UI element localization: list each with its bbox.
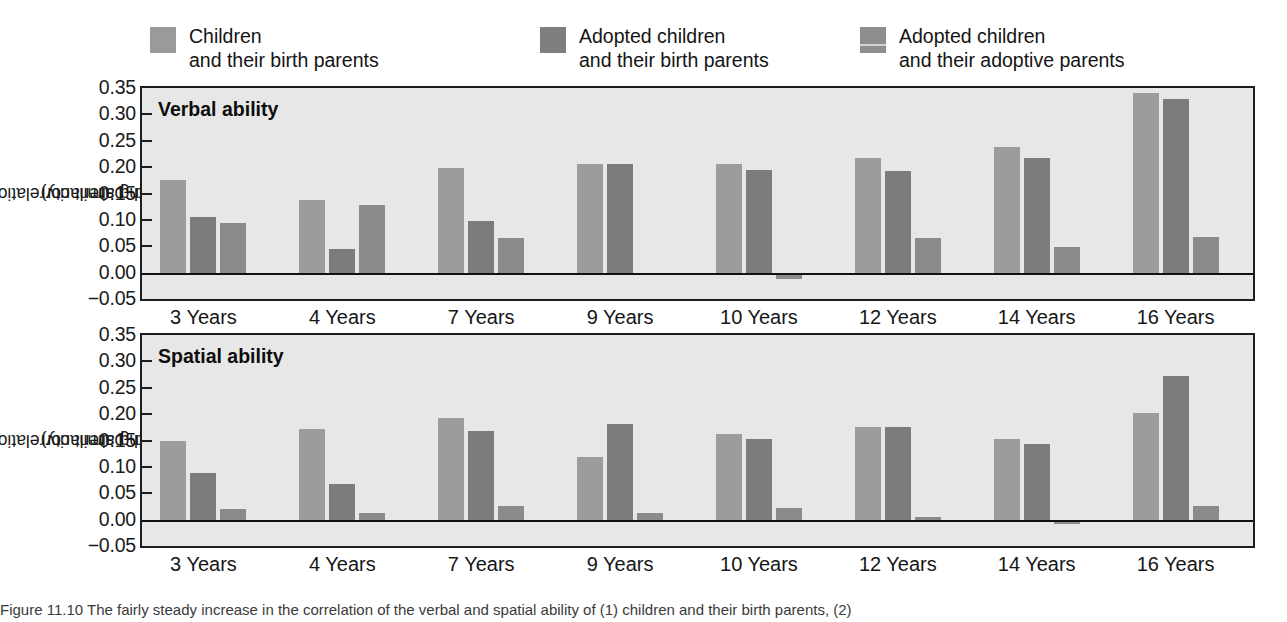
y-axis-ticks-verbal: 0.350.300.250.200.150.100.050.00−0.05: [58, 86, 136, 301]
figure-caption: Figure 11.10 The fairly steady increase …: [0, 600, 1287, 619]
y-tick-label: 0.35: [99, 325, 136, 345]
bar: [160, 441, 186, 520]
y-tick-label: 0.00: [99, 263, 136, 283]
bar: [1024, 158, 1050, 273]
x-tick-label: 7 Years: [448, 552, 515, 576]
y-tick-label: 0.10: [99, 457, 136, 477]
y-tick-label: 0.20: [99, 157, 136, 177]
bar: [1163, 376, 1189, 519]
y-tick-mark: [142, 387, 152, 389]
y-tick-label: 0.15: [99, 431, 136, 451]
bar: [994, 439, 1020, 520]
x-tick-label: 12 Years: [859, 305, 937, 329]
x-tick-label: 9 Years: [587, 552, 654, 576]
y-tick-mark: [142, 113, 152, 115]
bar: [329, 484, 355, 519]
bar: [299, 200, 325, 272]
x-tick-label: 7 Years: [448, 305, 515, 329]
y-tick-label: −0.05: [88, 289, 136, 309]
y-tick-label: 0.15: [99, 184, 136, 204]
bar: [438, 418, 464, 519]
bar: [1193, 506, 1219, 519]
y-tick-label: 0.35: [99, 78, 136, 98]
x-axis-labels-spatial: 3 Years4 Years7 Years9 Years10 Years12 Y…: [140, 552, 1255, 582]
y-tick-label: 0.10: [99, 210, 136, 230]
x-tick-label: 4 Years: [309, 552, 376, 576]
bar: [607, 424, 633, 520]
bar: [190, 217, 216, 272]
bar: [746, 439, 772, 520]
y-tick-mark: [142, 140, 152, 142]
bar: [498, 238, 524, 272]
x-tick-label: 14 Years: [998, 552, 1076, 576]
bar: [885, 171, 911, 273]
x-axis-labels-verbal: 3 Years4 Years7 Years9 Years10 Years12 Y…: [140, 305, 1255, 335]
bar: [716, 164, 742, 272]
bar: [885, 427, 911, 519]
x-tick-label: 14 Years: [998, 305, 1076, 329]
bar: [716, 434, 742, 520]
bar: [1133, 413, 1159, 520]
x-tick-label: 10 Years: [720, 552, 798, 576]
plot-area-spatial: Spatial ability: [140, 333, 1255, 548]
bar: [359, 205, 385, 273]
y-tick-label: 0.30: [99, 105, 136, 125]
legend-label-adopted-birth: Adopted children and their birth parents: [579, 24, 769, 72]
plot-title-spatial: Spatial ability: [158, 345, 284, 368]
legend-label-adopted-adoptive: Adopted children and their adoptive pare…: [899, 24, 1125, 72]
legend-item-children-birth: Children and their birth parents: [150, 24, 480, 72]
bar: [994, 147, 1020, 273]
y-tick-label: 0.05: [99, 237, 136, 257]
legend-label-children-birth: Children and their birth parents: [189, 24, 379, 72]
bar: [1193, 237, 1219, 273]
bar: [746, 170, 772, 273]
bar: [577, 164, 603, 272]
bar: [190, 473, 216, 519]
y-tick-mark: [142, 360, 152, 362]
x-tick-label: 3 Years: [170, 305, 237, 329]
chart-panel-spatial-ability: Child–parent correlation(increasing simi…: [0, 333, 1287, 548]
y-tick-label: 0.30: [99, 352, 136, 372]
y-tick-mark: [142, 466, 152, 468]
bar: [855, 427, 881, 519]
x-tick-label: 12 Years: [859, 552, 937, 576]
chart-panel-verbal-ability: Child–parent correlation(increasing simi…: [0, 86, 1287, 301]
zero-baseline: [142, 520, 1253, 523]
x-tick-label: 16 Years: [1137, 552, 1215, 576]
legend-swatch-adopted-adoptive-icon: [860, 27, 886, 53]
x-tick-label: 9 Years: [587, 305, 654, 329]
y-tick-mark: [142, 440, 152, 442]
bar: [1133, 93, 1159, 272]
plot-title-verbal: Verbal ability: [158, 98, 278, 121]
bar: [637, 513, 663, 520]
legend-swatch-adopted-birth-icon: [540, 27, 566, 53]
x-tick-label: 4 Years: [309, 305, 376, 329]
bar: [329, 249, 355, 273]
bar: [498, 506, 524, 519]
bar: [468, 431, 494, 520]
y-tick-mark: [142, 219, 152, 221]
y-tick-label: −0.05: [88, 536, 136, 556]
bar: [855, 158, 881, 273]
bar: [220, 223, 246, 273]
bar: [299, 429, 325, 520]
bar: [915, 238, 941, 272]
x-tick-label: 16 Years: [1137, 305, 1215, 329]
bar: [160, 180, 186, 272]
y-tick-mark: [142, 413, 152, 415]
legend-item-adopted-adoptive: Adopted children and their adoptive pare…: [860, 24, 1160, 72]
bar: [776, 508, 802, 520]
bar: [468, 221, 494, 272]
bar: [1024, 444, 1050, 519]
bar: [1054, 247, 1080, 272]
y-axis-ticks-spatial: 0.350.300.250.200.150.100.050.00−0.05: [58, 333, 136, 548]
x-tick-label: 3 Years: [170, 552, 237, 576]
bar: [607, 164, 633, 272]
y-tick-mark: [142, 193, 152, 195]
y-tick-label: 0.05: [99, 484, 136, 504]
y-tick-mark: [142, 492, 152, 494]
y-tick-mark: [142, 166, 152, 168]
bar: [577, 457, 603, 519]
x-tick-label: 10 Years: [720, 305, 798, 329]
legend-item-adopted-birth: Adopted children and their birth parents: [540, 24, 800, 72]
